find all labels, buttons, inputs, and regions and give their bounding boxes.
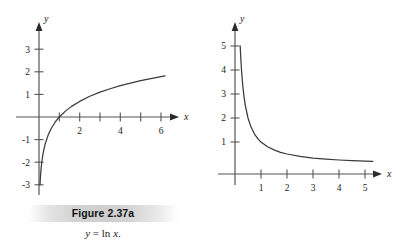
x-axis-label-a: x: [183, 111, 189, 122]
figure-pair-page: y x 2 4 6: [0, 0, 408, 247]
x-tick-label-b-1: 1: [259, 183, 264, 193]
y-tick-label-b-3: 3: [221, 89, 226, 99]
y-tick-label-b-5: 5: [221, 41, 226, 51]
y-tick-label-a-1: 1: [25, 90, 30, 100]
caption-a-period: .: [118, 227, 121, 239]
x-axis-label-b: x: [386, 168, 392, 179]
reciprocal-curve: [240, 46, 373, 161]
x-tick-label-b-3: 3: [311, 183, 316, 193]
caption-a-eq: = ln: [90, 227, 113, 239]
plot-area-b: y x 1 2 3 4 5: [204, 0, 408, 205]
y-axis-label-b: y: [239, 13, 245, 24]
y-tick-label-a-neg2: -2: [22, 158, 30, 168]
y-tick-label-a-neg1: -1: [22, 135, 30, 145]
figure-2-37b: y x 1 2 3 4 5: [204, 0, 408, 247]
y-tick-label-a-3: 3: [25, 45, 30, 55]
y-axis-arrow-b: [232, 22, 239, 31]
y-axis-arrow-a: [36, 22, 43, 31]
chart-svg-b: y x 1 2 3 4 5: [204, 0, 408, 205]
figure-2-37a: y x 2 4 6: [0, 0, 204, 247]
x-tick-label-b-2: 2: [285, 183, 290, 193]
caption-subtitle-a: y = ln x.: [28, 226, 178, 240]
x-tick-label-a-6: 6: [159, 126, 164, 136]
ln-curve: [40, 76, 165, 185]
plot-area-a: y x 2 4 6: [0, 0, 204, 205]
y-tick-label-a-neg3: -3: [22, 180, 30, 190]
chart-svg-a: y x 2 4 6: [0, 0, 204, 205]
y-tick-label-b-2: 2: [221, 113, 226, 123]
x-tick-label-b-5: 5: [363, 183, 368, 193]
y-axis-label-a: y: [43, 13, 49, 24]
y-tick-label-a-2: 2: [25, 67, 30, 77]
y-tick-label-b-1: 1: [221, 137, 226, 147]
caption-title-a: Figure 2.37a: [28, 205, 178, 222]
x-axis-arrow-a: [170, 113, 179, 120]
x-tick-label-a-2: 2: [77, 126, 82, 136]
y-tick-label-b-4: 4: [221, 65, 226, 75]
x-tick-label-b-4: 4: [337, 183, 342, 193]
x-axis-arrow-b: [373, 170, 382, 177]
x-tick-label-a-4: 4: [118, 126, 123, 136]
